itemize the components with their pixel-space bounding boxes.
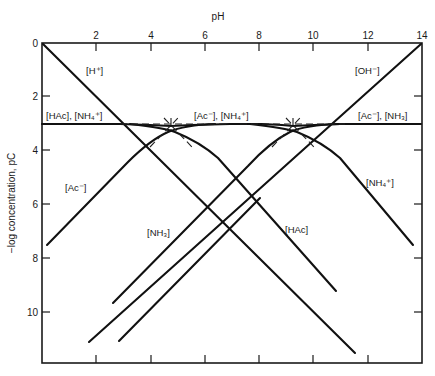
log-concentration-diagram: pH −log concentration, pC 2 4 6 8 10 12 … (0, 0, 435, 376)
label-hac-nh4: [HAc], [NH₄⁺] (46, 110, 102, 121)
total-concentration-line (42, 124, 421, 126)
y-tick-labels: 0 2 4 6 8 10 (27, 38, 39, 318)
label-ac-nh4: [Ac⁻], [NH₄⁺] (194, 110, 249, 121)
system-point-nh4 (240, 118, 345, 147)
svg-text:2: 2 (93, 30, 99, 41)
label-h-plus: [H⁺] (86, 65, 103, 76)
y-axis-title: −log concentration, pC (6, 153, 17, 253)
x-ticks-top (96, 43, 368, 51)
svg-text:2: 2 (32, 91, 38, 102)
h-plus-line (43, 44, 355, 353)
x-ticks-bottom (96, 355, 368, 363)
label-hac: [HAc] (285, 224, 308, 235)
y-ticks-right (414, 96, 422, 312)
svg-text:4: 4 (32, 145, 38, 156)
oh-minus-line (89, 44, 421, 342)
label-nh4-plus: [NH₄⁺] (366, 177, 394, 188)
y-ticks-left (42, 96, 50, 312)
svg-text:8: 8 (256, 30, 262, 41)
nh3-extension-line (119, 198, 260, 341)
svg-text:8: 8 (32, 253, 38, 264)
x-axis-title: pH (212, 11, 225, 22)
svg-text:12: 12 (362, 30, 374, 41)
svg-text:0: 0 (32, 38, 38, 49)
label-nh3: [NH₃] (147, 227, 170, 238)
svg-text:14: 14 (416, 30, 428, 41)
svg-text:10: 10 (27, 307, 39, 318)
svg-text:6: 6 (32, 199, 38, 210)
label-ac-minus: [Ac⁻] (65, 182, 86, 193)
nh3-curve (113, 124, 340, 303)
svg-text:6: 6 (202, 30, 208, 41)
plot-frame (42, 43, 422, 363)
label-oh-minus: [OH⁻] (355, 65, 380, 76)
svg-text:10: 10 (307, 30, 319, 41)
x-tick-labels: 2 4 6 8 10 12 14 (93, 30, 428, 41)
label-ac-nh3: [Ac⁻], [NH₃] (358, 110, 408, 121)
svg-text:4: 4 (148, 30, 154, 41)
